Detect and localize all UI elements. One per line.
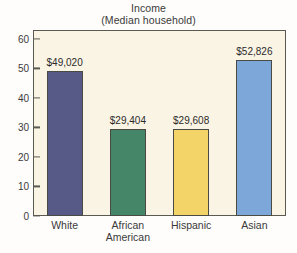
bar bbox=[110, 129, 146, 216]
chart-title-block: Income (Median household) bbox=[0, 2, 297, 26]
y-tick-label: 20 bbox=[0, 151, 29, 162]
bar-value-label: $29,608 bbox=[173, 115, 209, 126]
chart-title: Income bbox=[0, 2, 297, 14]
x-tick-label-line: Hispanic bbox=[160, 219, 223, 231]
y-tick-label: 40 bbox=[0, 92, 29, 103]
bar bbox=[236, 60, 272, 216]
bar-slot: $52,826 bbox=[223, 30, 286, 216]
bar-value-label: $29,404 bbox=[110, 115, 146, 126]
y-tick-label: 50 bbox=[0, 63, 29, 74]
x-tick-label-line: American bbox=[96, 231, 159, 243]
bar-slot: $29,608 bbox=[160, 30, 223, 216]
y-axis-tick-labels: 0102030405060 bbox=[0, 30, 29, 216]
bar-value-label: $49,020 bbox=[47, 57, 83, 68]
y-tick-label: 60 bbox=[0, 33, 29, 44]
x-tick-label-line: African bbox=[96, 219, 159, 231]
x-tick-label-line: Asian bbox=[223, 219, 286, 231]
bar-value-label: $52,826 bbox=[236, 46, 272, 57]
x-axis-tick-labels: WhiteAfricanAmericanHispanicAsian bbox=[33, 219, 286, 253]
y-tick-label: 0 bbox=[0, 211, 29, 222]
x-tick-label-line: White bbox=[33, 219, 96, 231]
bar bbox=[173, 129, 209, 216]
chart-figure: Income (Median household) 0102030405060 … bbox=[0, 0, 297, 253]
x-tick-label: Hispanic bbox=[160, 219, 223, 231]
x-tick-label: AfricanAmerican bbox=[96, 219, 159, 243]
bar bbox=[47, 71, 83, 216]
y-tick-label: 10 bbox=[0, 181, 29, 192]
bars-container: $49,020$29,404$29,608$52,826 bbox=[33, 30, 286, 216]
bar-slot: $29,404 bbox=[96, 30, 159, 216]
y-tick-label: 30 bbox=[0, 122, 29, 133]
chart-subtitle: (Median household) bbox=[0, 14, 297, 26]
bar-slot: $49,020 bbox=[33, 30, 96, 216]
x-tick-label: White bbox=[33, 219, 96, 231]
x-tick-label: Asian bbox=[223, 219, 286, 231]
